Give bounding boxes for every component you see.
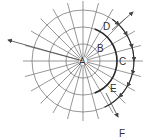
radial-line — [41, 64, 81, 104]
radial-line — [41, 19, 81, 59]
polar-grid-diagram: A B C D E F — [0, 0, 144, 140]
label-e: E — [110, 83, 117, 94]
radial-line — [86, 31, 134, 59]
radial-line — [85, 64, 113, 112]
radial-line — [86, 64, 126, 104]
radial-line — [53, 9, 81, 57]
label-f: F — [119, 128, 125, 139]
radial-line — [31, 63, 79, 91]
arrow-left-icon — [8, 40, 83, 61]
radial-line — [53, 64, 81, 112]
label-d: D — [103, 21, 110, 32]
label-b: B — [97, 43, 104, 54]
label-a: A — [79, 56, 86, 67]
radial-line — [31, 31, 79, 59]
tick-arrow-icon — [131, 45, 132, 48]
label-c: C — [119, 56, 126, 67]
